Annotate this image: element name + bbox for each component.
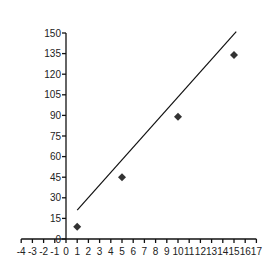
y-tick-label: 90	[50, 110, 62, 121]
x-tick-label: 10	[172, 246, 184, 257]
data-point	[230, 51, 238, 59]
x-tick-label: 6	[130, 246, 136, 257]
y-tick-label: 45	[50, 172, 62, 183]
x-tick-label: -2	[39, 246, 48, 257]
x-tick-label: 7	[142, 246, 148, 257]
y-tick-label: 75	[50, 131, 62, 142]
y-tick-label: 150	[44, 28, 61, 39]
x-tick-label: 14	[217, 246, 229, 257]
y-axis-ticks: 0153045607590105120135150	[44, 28, 66, 245]
y-tick-label: 135	[44, 48, 61, 59]
x-tick-label: 13	[206, 246, 218, 257]
x-tick-label: 1	[74, 246, 80, 257]
x-tick-label: 8	[153, 246, 159, 257]
y-tick-label: 30	[50, 192, 62, 203]
x-tick-label: -1	[50, 246, 59, 257]
data-points	[73, 51, 238, 231]
x-tick-label: 12	[195, 246, 207, 257]
data-point	[73, 223, 81, 231]
data-point	[174, 113, 182, 121]
x-tick-label: 15	[228, 246, 240, 257]
x-tick-label: 11	[184, 246, 195, 257]
x-tick-label: 0	[63, 246, 69, 257]
x-tick-label: -3	[28, 246, 37, 257]
x-tick-label: 4	[108, 246, 114, 257]
trendline	[77, 32, 236, 211]
x-tick-label: 5	[119, 246, 125, 257]
x-tick-label: 9	[164, 246, 170, 257]
data-point	[118, 173, 126, 181]
x-axis-ticks: -4-3-2-101234567891011121314151617	[17, 239, 263, 257]
x-tick-label: 17	[251, 246, 263, 257]
trendline-group	[77, 32, 236, 211]
y-tick-label: 0	[55, 234, 61, 245]
y-tick-label: 120	[44, 69, 61, 80]
x-tick-label: 16	[240, 246, 252, 257]
x-tick-label: 3	[97, 246, 103, 257]
x-tick-label: 2	[86, 246, 92, 257]
y-tick-label: 105	[44, 89, 61, 100]
y-tick-label: 15	[50, 213, 62, 224]
y-tick-label: 60	[50, 151, 62, 162]
scatter-chart: 0153045607590105120135150 -4-3-2-1012345…	[0, 0, 274, 276]
x-tick-label: -4	[17, 246, 26, 257]
